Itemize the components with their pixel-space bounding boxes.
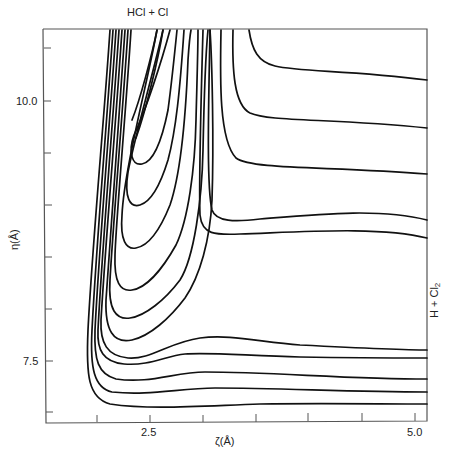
- contour-plot: [0, 0, 455, 461]
- axes-frame: [43, 29, 427, 423]
- y-axis-title: η(Å): [8, 229, 20, 250]
- x-tick-label-2-5: 2.5: [141, 426, 156, 438]
- x-axis-title: ζ(Å): [215, 435, 235, 447]
- contour-lines: [87, 30, 427, 407]
- right-annotation-main: H + Cl: [428, 287, 440, 318]
- right-annotation-h-cl2: H + Cl2: [428, 283, 442, 318]
- x-ticks: [97, 413, 415, 422]
- y-tick-label-10: 10.0: [16, 95, 37, 107]
- right-annotation-subscript: 2: [433, 283, 442, 287]
- top-annotation-hcl-cl: HCl + Cl: [127, 6, 168, 18]
- y-tick-label-7-5: 7.5: [23, 355, 38, 367]
- x-tick-label-5-0: 5.0: [407, 426, 422, 438]
